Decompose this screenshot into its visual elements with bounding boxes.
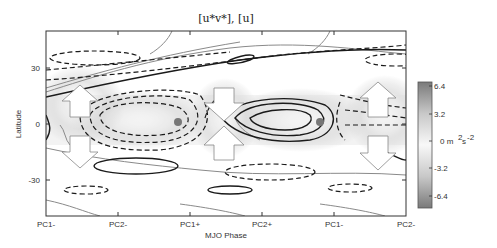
x-tick-label: PC2- xyxy=(397,220,416,229)
cbar-tick-label: 6.4 xyxy=(434,82,446,91)
x-tick-label: PC2- xyxy=(109,220,128,229)
cbar-tick-label: -6.4 xyxy=(434,192,448,201)
x-tick-label: PC1+ xyxy=(180,220,201,229)
y-tick-label: 30 xyxy=(31,64,40,73)
cbar-tick-label: -3.2 xyxy=(434,164,448,173)
y-axis-label: Latitude xyxy=(14,109,23,138)
x-tick-label: PC1- xyxy=(37,220,56,229)
colorbar-tick-labels: 6.4 3.2 0 m 2 s -2 -3.2 -6.4 xyxy=(434,82,475,201)
marker-dot xyxy=(174,118,182,126)
marker-dot xyxy=(316,118,324,126)
cbar-units-s: s xyxy=(462,137,466,146)
x-tick-label: PC1- xyxy=(325,220,344,229)
y-tick-label: 0 xyxy=(36,120,41,129)
x-tick-label: PC2+ xyxy=(252,220,273,229)
x-tick-labels: PC1- PC2- PC1+ PC2+ PC1- PC2- xyxy=(37,220,416,229)
y-tick-label: -30 xyxy=(28,176,40,185)
y-tick-labels: 30 0 -30 xyxy=(28,64,40,185)
colorbar xyxy=(418,82,432,208)
chart-title: [u*v*], [u] xyxy=(198,12,254,25)
cbar-tick-label: 3.2 xyxy=(434,110,446,119)
cbar-tick-label: 0 m xyxy=(440,137,454,146)
cbar-units-sup: -2 xyxy=(467,133,475,142)
x-axis-label: MJO Phase xyxy=(205,231,247,240)
plot-area xyxy=(35,31,425,216)
figure: [u*v*], [u] xyxy=(0,0,497,248)
